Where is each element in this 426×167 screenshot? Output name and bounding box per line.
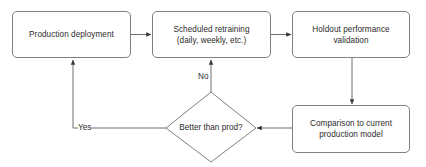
node-holdout-performance-validation-label-line2: validation [333, 36, 368, 45]
node-scheduled-retraining[interactable]: Scheduled retraining (daily, weekly, etc… [152, 11, 271, 58]
node-better-than-prod-label[interactable]: Better than prod? [166, 123, 256, 133]
node-comparison-to-current-production-model[interactable]: Comparison to current production model [292, 105, 410, 153]
edge-label-no: No [198, 72, 208, 82]
node-comparison-label-line1: Comparison to current [310, 119, 392, 128]
node-holdout-performance-validation[interactable]: Holdout performance validation [292, 11, 410, 58]
edge-decision-yes-to-deployment [73, 60, 166, 128]
edge-label-yes: Yes [78, 123, 91, 133]
node-production-deployment[interactable]: Production deployment [12, 11, 131, 58]
flowchart-canvas: Scheduled retraining (vertical up) --> P… [0, 0, 426, 167]
node-scheduled-retraining-label-line1: Scheduled retraining [173, 25, 249, 34]
node-holdout-performance-validation-label-line1: Holdout performance [312, 25, 389, 34]
node-production-deployment-label: Production deployment [25, 29, 118, 40]
node-scheduled-retraining-label-line2: (daily, weekly, etc.) [177, 36, 246, 45]
node-comparison-label-line2: production model [319, 130, 383, 139]
